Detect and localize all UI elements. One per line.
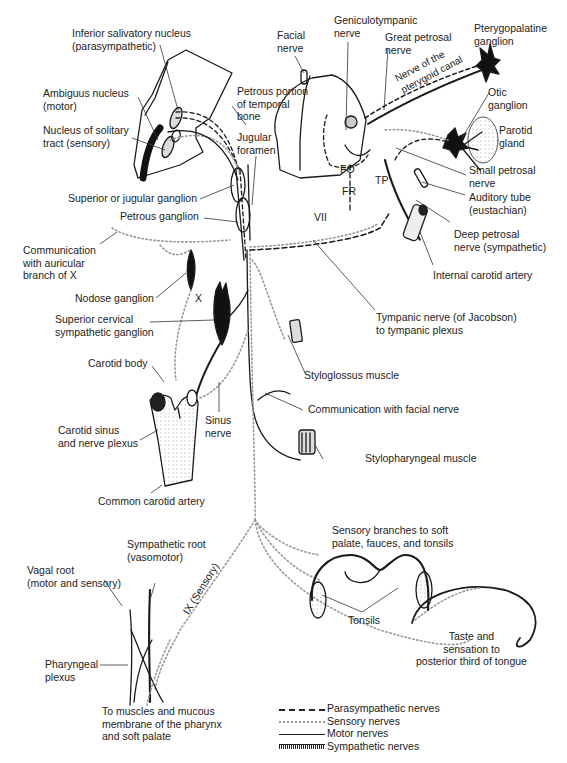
label-internal-carotid-artery: Internal carotid artery (433, 269, 532, 282)
label-small-petrosal-nerve: Small petrosal nerve (469, 164, 536, 189)
label-sensory-branches: Sensory branches to soft palate, fauces,… (332, 524, 453, 549)
label-vagal-root: Vagal root (motor and sensory) (27, 564, 121, 589)
label-superior-jugular-ganglion: Superior or jugular ganglion (68, 192, 197, 205)
label-petrous-portion: Petrous portion of temporal bone (237, 85, 308, 123)
label-fr: FR (342, 185, 356, 198)
label-auricular-communication: Communication with auricular branch of X (23, 244, 96, 282)
label-petrous-ganglion: Petrous ganglion (120, 210, 199, 223)
legend: Parasympathetic nerves Sensory nerves Mo… (279, 702, 440, 752)
label-nodose-ganglion: Nodose ganglion (75, 292, 154, 305)
legend-item-sensory: Sensory nerves (279, 715, 440, 728)
label-common-carotid-artery: Common carotid artery (98, 495, 205, 508)
label-pharyngeal-plexus: Pharyngeal plexus (45, 658, 98, 683)
label-to-muscles-mucous: To muscles and mucous membrane of the ph… (102, 705, 222, 743)
label-ambiguus-nucleus: Ambiguus nucleus (motor) (43, 87, 129, 112)
label-otic-ganglion: Otic ganglion (488, 86, 528, 111)
label-tp: TP (375, 174, 388, 187)
dotted-line-icon (279, 721, 325, 723)
legend-item-sympathetic: Sympathetic nerves (279, 740, 440, 753)
label-parotid-gland: Parotid gland (499, 124, 532, 149)
label-sinus-nerve: Sinus nerve (205, 414, 231, 439)
label-vii: VII (314, 211, 327, 224)
label-jugular-foramen: Jugular foramen (237, 131, 276, 156)
legend-item-parasympathetic: Parasympathetic nerves (279, 702, 440, 715)
label-carotid-sinus: Carotid sinus and nerve plexus (58, 424, 138, 449)
label-superior-cervical-ganglion: Superior cervical sympathetic ganglion (55, 313, 154, 338)
label-sympathetic-root: Sympathetic root (vasomotor) (127, 538, 206, 563)
label-styloglossus-muscle: Styloglossus muscle (304, 369, 399, 382)
label-stylopharyngeal-muscle: Stylopharyngeal muscle (365, 452, 476, 465)
solid-line-icon (279, 734, 325, 735)
label-nucleus-solitary-tract: Nucleus of solitary tract (sensory) (43, 124, 129, 149)
label-deep-petrosal-nerve: Deep petrosal nerve (sympathetic) (454, 228, 546, 253)
label-fo: FO (340, 163, 355, 176)
label-taste-sensation: Taste and sensation to posterior third o… (416, 630, 527, 668)
hatched-line-icon (279, 744, 325, 749)
label-x: X (195, 292, 202, 305)
label-carotid-body: Carotid body (88, 357, 148, 370)
label-pterygopalatine-ganglion: Pterygopalatine ganglion (474, 22, 547, 47)
label-auditory-tube: Auditory tube (eustachian) (469, 191, 531, 216)
dashed-line-icon (279, 709, 325, 711)
label-tonsils: Tonsils (348, 614, 380, 627)
label-tympanic-nerve: Tympanic nerve (of Jacobson) to tympanic… (376, 311, 517, 336)
legend-item-motor: Motor nerves (279, 727, 440, 740)
label-communication-facial: Communication with facial nerve (308, 403, 459, 416)
label-inferior-salivatory-nucleus: Inferior salivatory nucleus (parasympath… (72, 27, 191, 52)
label-facial-nerve: Facial nerve (277, 29, 305, 54)
